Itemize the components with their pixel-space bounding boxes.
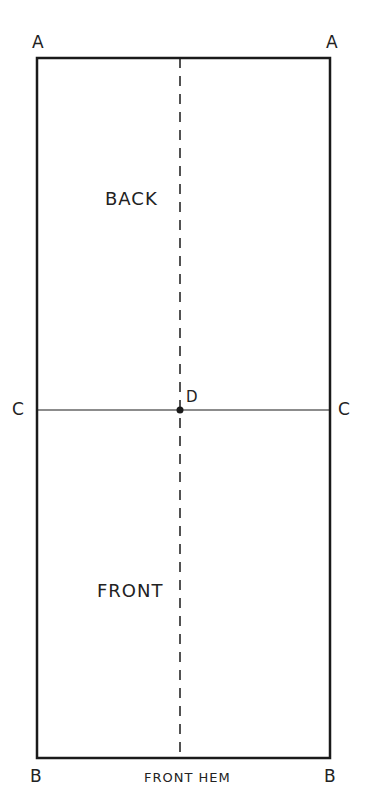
pattern-diagram — [0, 0, 368, 808]
label-b-right: B — [324, 766, 336, 786]
label-a-right: A — [326, 32, 338, 52]
front-hem-label: FRONT HEM — [144, 770, 231, 785]
label-d: D — [186, 388, 198, 406]
region-label-front: FRONT — [97, 580, 164, 601]
point-d-dot — [177, 407, 184, 414]
label-a-left: A — [32, 32, 44, 52]
label-c-left: C — [12, 399, 24, 419]
label-b-left: B — [30, 766, 42, 786]
label-c-right: C — [338, 399, 350, 419]
garment-rectangle — [37, 58, 330, 758]
region-label-back: BACK — [105, 188, 158, 209]
